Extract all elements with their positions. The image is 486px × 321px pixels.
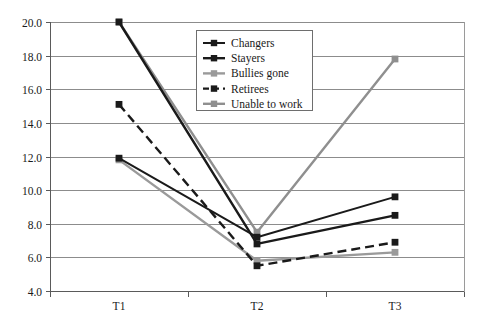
legend-label: Unable to work	[231, 98, 303, 110]
legend-label: Retirees	[231, 83, 269, 95]
data-point-marker	[116, 101, 123, 108]
data-point-marker	[116, 19, 123, 26]
x-axis-tick-label: T1	[113, 300, 126, 312]
data-point-marker	[116, 155, 123, 162]
line-chart: 4.06.08.010.012.014.016.018.020.0 T1T2T3…	[0, 0, 486, 321]
y-axis-tick-label: 16.0	[22, 84, 42, 96]
legend-marker	[211, 85, 217, 91]
y-axis-tick-label: 6.0	[28, 252, 43, 264]
data-point-marker	[392, 249, 399, 256]
legend-label: Changers	[231, 37, 275, 50]
y-axis-tick-label: 8.0	[28, 219, 43, 231]
data-point-marker	[254, 262, 261, 269]
legend-marker	[211, 70, 217, 76]
y-axis-tick-label: 12.0	[22, 152, 42, 164]
y-axis-tick-label: 20.0	[22, 17, 42, 29]
data-point-marker	[392, 239, 399, 246]
data-point-marker	[392, 56, 399, 63]
x-axis-tick-label: T3	[389, 300, 402, 312]
legend-label: Bullies gone	[231, 67, 289, 80]
y-axis-tick-label: 14.0	[22, 118, 42, 130]
legend-marker	[211, 40, 217, 46]
chart-legend: ChangersStayersBullies goneRetireesUnabl…	[197, 31, 313, 111]
chart-canvas: 4.06.08.010.012.014.016.018.020.0 T1T2T3…	[0, 0, 486, 321]
data-point-marker	[254, 241, 261, 248]
data-point-marker	[254, 234, 261, 241]
y-axis-tick-label: 18.0	[22, 51, 42, 63]
y-axis-tick-label: 4.0	[28, 286, 43, 298]
data-point-marker	[392, 193, 399, 200]
x-axis-tick-label: T2	[251, 300, 264, 312]
legend-marker	[211, 55, 217, 61]
legend-label: Stayers	[231, 52, 265, 65]
y-axis-tick-label: 10.0	[22, 185, 42, 197]
legend-marker	[211, 101, 217, 107]
data-point-marker	[392, 212, 399, 219]
